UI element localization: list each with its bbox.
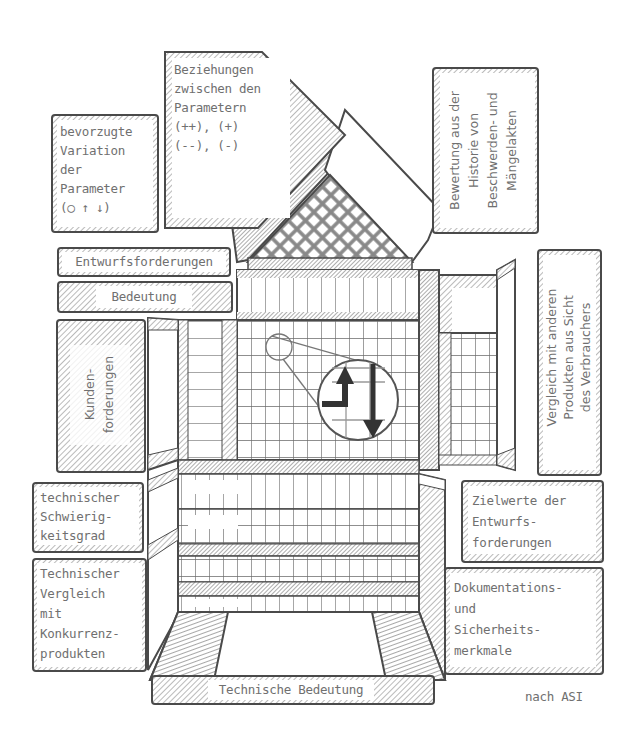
label-line: bevorzugte [60,122,132,141]
source-note-text: nach ASI [525,689,583,704]
label-line: technischer [40,488,119,507]
label-vergleich: Vergleich mit anderen Produkten aus Sich… [543,255,594,460]
label-line: Bewertung aus der [445,73,464,228]
label-line: mit [40,604,119,624]
label-line: Entwurfs- [472,511,566,532]
label-line: Konkurrenz- [40,624,119,644]
label-line: Zielwerte der [472,490,566,511]
label-line: Variation [60,141,132,160]
label-line: Vergleich mit anderen [543,255,560,460]
label-dokumentation: Dokumentations- und Sicherheits- merkmal… [454,577,562,661]
label-text: Bedeutung [111,289,176,304]
label-bedeutung: Bedeutung [96,287,192,307]
label-line: Produkten aus Sicht [560,255,577,460]
label-line: der [60,160,132,179]
source-note: nach ASI [525,687,583,706]
label-line: Beschwerden- und [483,73,502,228]
label-technischer-vergleich: Technischer Vergleich mit Konkurrenz- pr… [40,564,119,664]
label-line: Technischer [40,564,119,584]
label-line: Historie von [464,73,483,228]
label-line: keitsgrad [40,526,119,545]
label-line: Kunden- [80,347,99,442]
label-beziehungen: Beziehungen zwischen den Parametern (++)… [174,60,261,155]
label-line: Parameter [60,179,132,198]
label-line: Mängelakten [502,73,521,228]
label-text: Technische Bedeutung [219,682,364,697]
label-line: Vergleich [40,584,119,604]
label-line: des Verbrauchers [577,255,594,460]
label-line: zwischen den [174,79,261,98]
label-line: merkmale [454,640,562,661]
label-kundenforderungen: Kunden- forderungen [80,347,118,442]
label-schwierigkeitsgrad: technischer Schwierig- keitsgrad [40,488,119,545]
label-line: (++), (+) [174,117,261,136]
label-line: Beziehungen [174,60,261,79]
label-entwurfsforderungen: Entwurfsforderungen [62,252,226,272]
label-bewertung: Bewertung aus der Historie von Beschwerd… [445,73,521,228]
label-text: Entwurfsforderungen [75,254,212,269]
label-line: (○ ↑ ↓) [60,198,132,217]
label-line: forderungen [99,347,118,442]
label-line: Dokumentations- [454,577,562,598]
label-line: Sicherheits- [454,619,562,640]
label-line: produkten [40,644,119,664]
label-line: (--), (-) [174,136,261,155]
label-line: und [454,598,562,619]
label-line: Parametern [174,98,261,117]
label-line: Schwierig- [40,507,119,526]
label-technische-bedeutung: Technische Bedeutung [200,680,382,700]
label-bevorzugte-variation: bevorzugte Variation der Parameter (○ ↑ … [60,122,132,217]
label-line: forderungen [472,532,566,553]
label-zielwerte: Zielwerte der Entwurfs- forderungen [472,490,566,553]
